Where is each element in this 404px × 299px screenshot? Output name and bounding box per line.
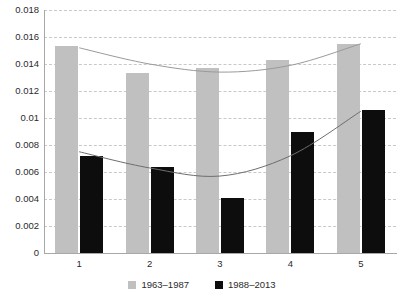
x-axis-tick-labels: 12345 xyxy=(44,256,396,274)
y-tick-label: 0.012 xyxy=(0,86,39,96)
y-tick-label: 0.006 xyxy=(0,167,39,177)
x-tick-label: 3 xyxy=(185,259,255,269)
x-tick-label: 5 xyxy=(326,259,396,269)
legend-swatch-icon xyxy=(215,281,223,289)
y-tick-label: 0.018 xyxy=(0,5,39,15)
bar-chart: 00.0020.0040.0060.0080.010.0120.0140.016… xyxy=(0,0,404,299)
legend-item: 1988–2013 xyxy=(215,280,276,290)
legend-swatch-icon xyxy=(128,281,136,289)
legend-item: 1963–1987 xyxy=(128,280,189,290)
legend-label: 1988–2013 xyxy=(228,280,276,290)
chart-legend: 1963–19871988–2013 xyxy=(0,280,404,290)
x-axis-line xyxy=(44,253,397,254)
y-tick-label: 0.014 xyxy=(0,59,39,69)
y-axis-tick-labels: 00.0020.0040.0060.0080.010.0120.0140.016… xyxy=(0,10,404,253)
legend-label: 1963–1987 xyxy=(141,280,189,290)
x-tick-label: 1 xyxy=(44,259,114,269)
y-tick-label: 0.016 xyxy=(0,32,39,42)
y-tick-label: 0.008 xyxy=(0,140,39,150)
x-tick-label: 2 xyxy=(114,259,184,269)
x-tick-label: 4 xyxy=(255,259,325,269)
y-tick-label: 0.002 xyxy=(0,221,39,231)
y-tick-label: 0.004 xyxy=(0,194,39,204)
y-tick-label: 0.01 xyxy=(0,113,39,123)
y-tick-label: 0 xyxy=(0,248,39,258)
